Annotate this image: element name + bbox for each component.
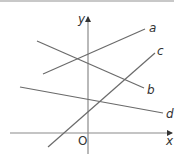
origin-label: O [78,134,87,148]
line-b-label: b [147,83,155,97]
line-d-label: d [166,107,174,121]
x-axis-label: x [165,134,174,148]
line-c-label: c [157,44,164,58]
line-a [43,29,145,74]
y-axis-label: y [77,12,86,26]
line-a-label: a [149,21,156,35]
line-b [37,41,144,88]
line-diagram: y x O a b c d [0,0,182,161]
